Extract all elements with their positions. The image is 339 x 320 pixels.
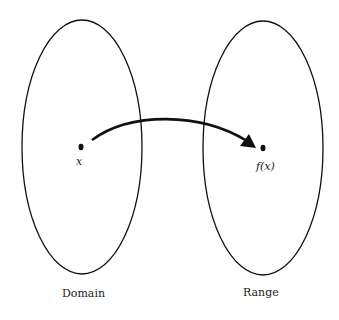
domain-point-label: x (76, 155, 82, 168)
function-mapping-diagram (0, 0, 339, 320)
domain-point (79, 144, 84, 151)
range-label: Range (243, 286, 279, 299)
range-point-label: f(x) (256, 160, 275, 173)
domain-label: Domain (62, 287, 105, 300)
mapping-arrow (92, 119, 247, 141)
range-point (261, 145, 266, 152)
arrow-head (240, 134, 256, 148)
